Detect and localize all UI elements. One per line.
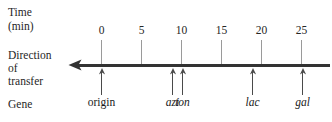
time-tick-label: 0	[99, 24, 105, 36]
time-tick	[141, 40, 142, 65]
time-tick	[101, 40, 102, 65]
up-arrowhead-icon	[169, 68, 176, 75]
gene-label: origin	[88, 96, 115, 109]
time-tick	[261, 40, 262, 65]
time-tick	[181, 40, 182, 65]
direction-row-label-of: of	[8, 62, 18, 75]
direction-row-label-transfer: transfer	[8, 75, 43, 88]
gene-pointer-stem	[302, 72, 303, 95]
conjugation-transfer-timeline-figure: Time (min) Direction of transfer Gene 05…	[0, 0, 332, 122]
time-row-label: Time	[8, 6, 32, 19]
time-tick-label: 10	[176, 24, 188, 36]
gene-pointer-stem	[182, 72, 183, 95]
direction-row-label: Direction	[8, 49, 51, 62]
gene-pointer-stem	[172, 72, 173, 95]
gene-label: lac	[245, 96, 259, 109]
time-tick-label: 25	[296, 24, 308, 36]
up-arrowhead-icon	[179, 68, 186, 75]
up-arrowhead-icon	[98, 68, 105, 75]
transfer-axis-line	[76, 64, 330, 67]
up-arrowhead-icon	[249, 68, 256, 75]
time-tick-label: 15	[216, 24, 228, 36]
time-tick	[221, 40, 222, 65]
time-tick-label: 20	[256, 24, 268, 36]
time-tick	[301, 40, 302, 65]
time-tick-label: 5	[139, 24, 145, 36]
gene-label: gal	[295, 96, 310, 109]
time-unit-label: (min)	[8, 20, 34, 33]
up-arrowhead-icon	[299, 68, 306, 75]
left-arrowhead-icon	[68, 58, 82, 72]
gene-row-label: Gene	[8, 98, 32, 111]
gene-pointer-stem	[101, 72, 102, 95]
gene-pointer-stem	[252, 72, 253, 95]
gene-label: ton	[175, 96, 190, 109]
